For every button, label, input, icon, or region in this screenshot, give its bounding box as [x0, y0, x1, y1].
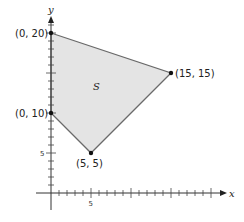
y-tick-label-5: 5 — [40, 150, 44, 158]
region-label-s: S — [93, 81, 100, 92]
vertex-label-15-15: (15, 15) — [175, 68, 215, 79]
vertex-point-0-20 — [49, 31, 53, 35]
coordinate-diagram: x y 5 5 S (0, 20) (15, 15) (5, 5) (0, 10… — [0, 0, 244, 222]
x-tick-label-5: 5 — [89, 200, 93, 208]
y-axis-arrow-icon — [48, 16, 54, 23]
x-axis-arrow-icon — [220, 190, 227, 196]
vertex-label-0-20: (0, 20) — [15, 28, 48, 39]
feasible-region-s — [51, 33, 171, 153]
x-axis-label: x — [229, 188, 235, 199]
vertex-point-5-5 — [89, 151, 93, 155]
vertex-point-0-10 — [49, 111, 53, 115]
y-axis-label: y — [47, 4, 54, 15]
vertex-point-15-15 — [169, 71, 173, 75]
vertex-label-5-5: (5, 5) — [76, 158, 103, 169]
vertex-label-0-10: (0, 10) — [15, 108, 48, 119]
